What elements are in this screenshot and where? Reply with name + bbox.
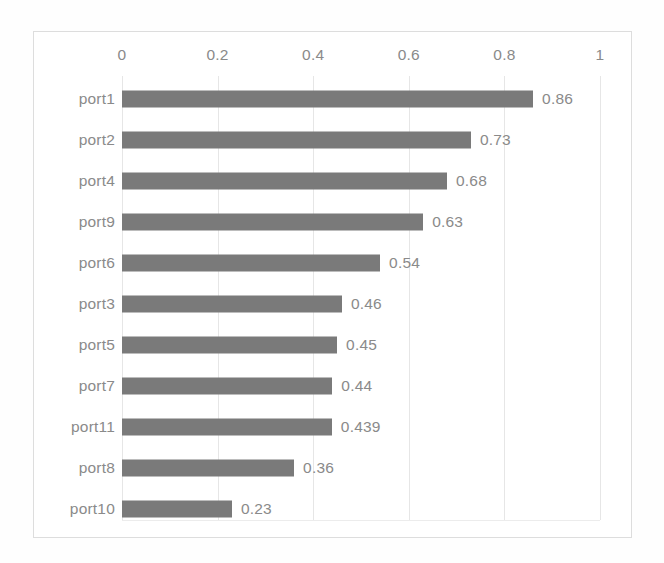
bar-row: port100.23 xyxy=(0,488,664,529)
bar-row: port110.439 xyxy=(0,406,664,447)
plot-area: port10.86port20.73port40.68port90.63port… xyxy=(0,0,664,563)
bar-port4[interactable] xyxy=(122,172,447,189)
bar-port2[interactable] xyxy=(122,131,471,148)
bar-row: port40.68 xyxy=(0,160,664,201)
category-label-port9: port9 xyxy=(79,213,115,231)
bar-value-label-port10: 0.23 xyxy=(241,500,272,518)
bar-row: port20.73 xyxy=(0,119,664,160)
category-label-port5: port5 xyxy=(79,336,115,354)
category-label-port10: port10 xyxy=(70,500,115,518)
bar-value-label-port8: 0.36 xyxy=(303,459,334,477)
bar-value-label-port7: 0.44 xyxy=(341,377,372,395)
bar-value-label-port6: 0.54 xyxy=(389,254,420,272)
bar-row: port70.44 xyxy=(0,365,664,406)
bar-port7[interactable] xyxy=(122,377,332,394)
bar-port8[interactable] xyxy=(122,459,294,476)
bar-value-label-port4: 0.68 xyxy=(456,172,487,190)
bar-port11[interactable] xyxy=(122,418,332,435)
bar-row: port90.63 xyxy=(0,201,664,242)
bar-row: port80.36 xyxy=(0,447,664,488)
bar-row: port50.45 xyxy=(0,324,664,365)
bar-value-label-port3: 0.46 xyxy=(351,295,382,313)
bar-port6[interactable] xyxy=(122,254,380,271)
bar-port1[interactable] xyxy=(122,90,533,107)
bar-port5[interactable] xyxy=(122,336,337,353)
category-label-port2: port2 xyxy=(79,131,115,149)
category-label-port7: port7 xyxy=(79,377,115,395)
category-label-port11: port11 xyxy=(71,418,115,436)
category-label-port4: port4 xyxy=(79,172,115,190)
category-label-port8: port8 xyxy=(79,459,115,477)
category-label-port6: port6 xyxy=(79,254,115,272)
bar-row: port10.86 xyxy=(0,78,664,119)
bar-row: port30.46 xyxy=(0,283,664,324)
bar-port9[interactable] xyxy=(122,213,423,230)
bar-value-label-port9: 0.63 xyxy=(432,213,463,231)
bar-value-label-port5: 0.45 xyxy=(346,336,377,354)
category-label-port1: port1 xyxy=(79,90,115,108)
bar-value-label-port1: 0.86 xyxy=(542,90,573,108)
bar-value-label-port2: 0.73 xyxy=(480,131,511,149)
category-label-port3: port3 xyxy=(79,295,115,313)
bar-value-label-port11: 0.439 xyxy=(341,418,381,436)
bar-port10[interactable] xyxy=(122,500,232,517)
bar-port3[interactable] xyxy=(122,295,342,312)
chart-page: 00.20.40.60.81 port10.86port20.73port40.… xyxy=(0,0,664,563)
bar-row: port60.54 xyxy=(0,242,664,283)
